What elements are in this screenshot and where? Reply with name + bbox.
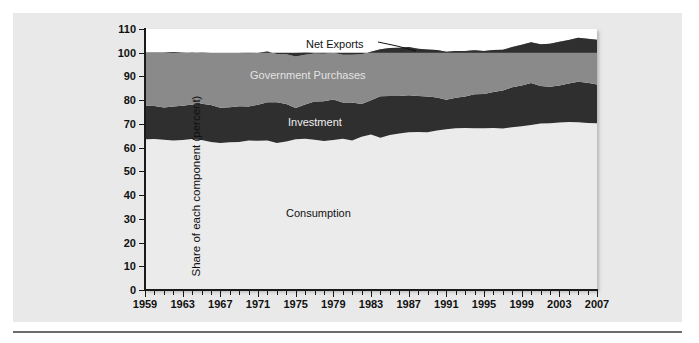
y-axis-title-holder: Share of each component (percent) — [98, 30, 118, 270]
x-axis-tick-minor — [164, 291, 165, 295]
x-axis-tick-minor — [154, 291, 155, 295]
y-axis-tick-label: 0 — [104, 285, 136, 296]
x-axis-tick-label: 2007 — [585, 298, 609, 310]
x-axis-tick-minor — [588, 291, 589, 295]
x-axis-tick-major — [220, 291, 221, 297]
figure: 0102030405060708090100110 19591963196719… — [0, 0, 699, 343]
y-axis-tick — [139, 124, 144, 125]
x-axis-tick-minor — [230, 291, 231, 295]
x-axis-tick-label: 1959 — [133, 298, 157, 310]
x-axis-tick-minor — [352, 291, 353, 295]
x-axis-tick-label: 1983 — [359, 298, 383, 310]
x-axis-tick-minor — [267, 291, 268, 295]
x-axis-tick-minor — [286, 291, 287, 295]
x-axis-tick-minor — [277, 291, 278, 295]
area-consumption — [145, 122, 597, 290]
y-axis-tick — [139, 76, 144, 77]
series-label-consumption: Consumption — [286, 207, 351, 219]
x-axis-tick-label: 1975 — [283, 298, 307, 310]
x-axis-tick-minor — [465, 291, 466, 295]
x-axis-tick-major — [371, 291, 372, 297]
x-axis-tick-major — [333, 291, 334, 297]
x-axis-tick-minor — [315, 291, 316, 295]
x-axis-tick-minor — [569, 291, 570, 295]
y-axis-tick — [139, 53, 144, 54]
x-axis-tick-minor — [380, 291, 381, 295]
bottom-divider-rule — [13, 331, 682, 333]
x-axis-tick-minor — [541, 291, 542, 295]
x-axis-tick-label: 1979 — [321, 298, 345, 310]
y-axis-tick — [139, 219, 144, 220]
series-label-net-exports: Net Exports — [306, 38, 363, 50]
stacked-area-svg — [145, 29, 597, 290]
x-axis-tick-major — [446, 291, 447, 297]
x-axis-tick-label: 2003 — [547, 298, 571, 310]
x-axis-tick-minor — [305, 291, 306, 295]
x-axis-tick-major — [522, 291, 523, 297]
x-axis-tick-major — [409, 291, 410, 297]
x-axis-tick-minor — [437, 291, 438, 295]
x-axis-tick-major — [484, 291, 485, 297]
x-axis-tick-minor — [211, 291, 212, 295]
x-axis-tick-minor — [503, 291, 504, 295]
x-axis-tick-minor — [249, 291, 250, 295]
x-axis-tick-minor — [239, 291, 240, 295]
x-axis-tick-label: 1995 — [472, 298, 496, 310]
plot-area — [145, 29, 597, 290]
x-axis-tick-minor — [512, 291, 513, 295]
x-axis-tick-major — [145, 291, 146, 297]
x-axis-tick-label: 1971 — [246, 298, 270, 310]
x-axis-tick-label: 1987 — [396, 298, 420, 310]
x-axis-tick-major — [183, 291, 184, 297]
y-axis-tick — [139, 29, 144, 30]
y-axis-tick — [139, 195, 144, 196]
y-axis-tick — [139, 171, 144, 172]
y-axis-tick — [139, 266, 144, 267]
y-axis-title: Share of each component (percent) — [190, 66, 202, 306]
x-axis-tick-minor — [550, 291, 551, 295]
x-axis-tick-label: 1967 — [208, 298, 232, 310]
x-axis-tick-minor — [343, 291, 344, 295]
x-axis-tick-minor — [531, 291, 532, 295]
x-axis-tick-major — [296, 291, 297, 297]
x-axis-tick-minor — [173, 291, 174, 295]
x-axis-tick-minor — [456, 291, 457, 295]
y-axis-tick — [139, 148, 144, 149]
x-axis-tick-label: 1999 — [509, 298, 533, 310]
x-axis-tick-major — [559, 291, 560, 297]
x-axis-tick-minor — [390, 291, 391, 295]
x-axis-tick-major — [597, 291, 598, 297]
y-axis-line — [144, 28, 146, 291]
x-axis-tick-minor — [428, 291, 429, 295]
x-axis-tick-minor — [362, 291, 363, 295]
series-label-investment: Investment — [288, 116, 342, 128]
y-axis-tick — [139, 243, 144, 244]
x-axis-tick-minor — [324, 291, 325, 295]
x-axis-tick-label: 1991 — [434, 298, 458, 310]
x-axis-tick-major — [258, 291, 259, 297]
series-label-government-purchases: Government Purchases — [250, 69, 366, 81]
x-axis-tick-minor — [475, 291, 476, 295]
x-axis-tick-minor — [493, 291, 494, 295]
x-axis-tick-minor — [578, 291, 579, 295]
x-axis-tick-minor — [399, 291, 400, 295]
y-axis-tick — [139, 100, 144, 101]
x-axis-tick-minor — [418, 291, 419, 295]
y-axis-tick — [139, 290, 144, 291]
